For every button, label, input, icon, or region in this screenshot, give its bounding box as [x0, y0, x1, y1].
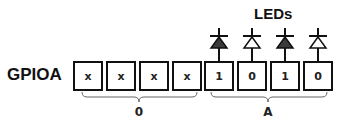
diagram-lines: [0, 0, 338, 123]
led-off-icon: [309, 28, 327, 61]
brace-group-a: [211, 92, 327, 102]
led-on-icon: [210, 28, 228, 61]
brace-group-0: [82, 92, 197, 102]
led-off-icon: [243, 28, 261, 61]
group-label-a: A: [258, 105, 278, 119]
group-label-0: 0: [129, 105, 149, 119]
led-on-icon: [276, 28, 294, 61]
